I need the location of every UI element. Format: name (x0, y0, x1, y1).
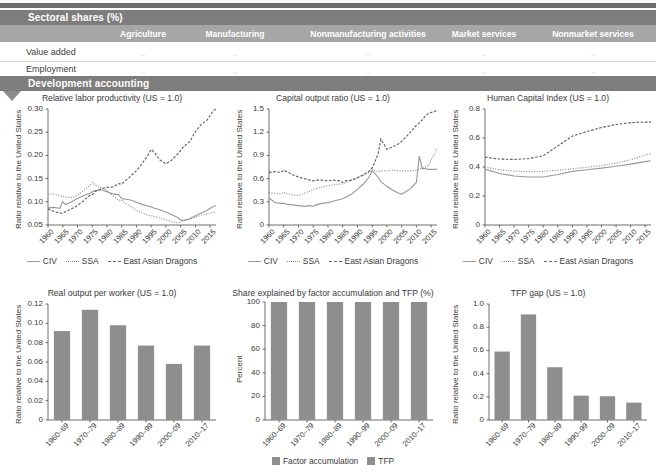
legend-item: TFP (367, 456, 394, 466)
bar (138, 346, 154, 420)
development-accounting-band: Development accounting (0, 76, 656, 91)
chart-plot-area (441, 93, 655, 273)
series-east-asian-dragons (485, 122, 651, 159)
chart-plot-area (441, 288, 655, 474)
series-ssa (48, 182, 216, 222)
legend-item: CIV (463, 256, 493, 266)
chart-plot-area (4, 288, 220, 474)
bar (82, 310, 98, 420)
cell-employment-market-services: .. (424, 66, 544, 75)
chart-share-factor-accumulation-tfp: Share explained by factor accumulation a… (225, 288, 441, 474)
bar (547, 367, 562, 420)
row-label-employment: Employment (26, 64, 76, 74)
cell-value-added-market-services: .. (424, 49, 544, 58)
legend-item: SSA (287, 256, 320, 266)
legend-item: East Asian Dragons (329, 256, 419, 266)
legend-label: SSA (82, 256, 99, 266)
legend-swatch-ssa-icon (502, 261, 515, 262)
bar (521, 314, 536, 420)
legend-swatch-ssa-icon (287, 261, 300, 262)
chart-tfp-gap: TFP gap (US = 1.0)Ratio relative to the … (441, 288, 655, 474)
bar (383, 302, 399, 420)
bar (299, 302, 315, 420)
legend-item: CIV (27, 256, 57, 266)
bar (574, 396, 589, 420)
series-civ (48, 190, 216, 221)
chart-plot-area (225, 93, 441, 273)
bar (327, 302, 343, 420)
chart-human-capital-index: Human Capital Index (US = 1.0)Ratio rela… (441, 93, 655, 273)
chart-plot-area (225, 288, 441, 474)
legend-label: SSA (518, 256, 535, 266)
legend-label: SSA (303, 256, 320, 266)
legend-label: East Asian Dragons (560, 256, 634, 266)
legend-item: SSA (66, 256, 99, 266)
sectoral-shares-band: Sectoral shares (%) (0, 10, 656, 25)
legend-label: East Asian Dragons (124, 256, 198, 266)
series-east-asian-dragons (269, 111, 437, 183)
chart-real-output-per-worker: Real output per worker (US = 1.0)Ratio r… (4, 288, 220, 474)
bar (600, 396, 615, 420)
development-accounting-title: Development accounting (0, 78, 149, 89)
bar (355, 302, 371, 420)
legend-label: CIV (264, 256, 278, 266)
cell-employment-nonmarket-services: .. (530, 66, 656, 75)
legend-swatch-east-asian-dragons-icon (329, 261, 342, 262)
legend-swatch-civ-icon (27, 261, 40, 262)
chart-legend: CIVSSAEast Asian Dragons (4, 256, 220, 266)
legend-item: East Asian Dragons (544, 256, 634, 266)
series-ssa (269, 148, 437, 196)
series-civ (269, 156, 437, 206)
table-row: Value added .. .. .. .. .. (0, 44, 656, 61)
legend-swatch-tfp-icon (367, 457, 375, 465)
bar (271, 302, 287, 420)
chart-plot-area (4, 93, 220, 273)
bar (411, 302, 427, 420)
column-header-market-services: Market services (424, 29, 544, 39)
legend-label: Factor accumulation (283, 456, 358, 466)
legend-item: East Asian Dragons (108, 256, 198, 266)
figure-page: Sectoral shares (%) Agriculture Manufact… (0, 0, 656, 474)
legend-swatch-east-asian-dragons-icon (108, 261, 121, 262)
legend-item: SSA (502, 256, 535, 266)
bar (626, 403, 641, 420)
legend-label: CIV (479, 256, 493, 266)
legend-swatch-factor-accumulation-icon (272, 457, 280, 465)
sectoral-shares-title: Sectoral shares (%) (0, 12, 123, 23)
bar (54, 331, 70, 420)
column-header-nonmarket-services: Nonmarket services (530, 29, 656, 39)
legend-label: CIV (43, 256, 57, 266)
row-label-value-added: Value added (26, 47, 76, 57)
bar (110, 325, 126, 420)
legend-label: TFP (378, 456, 394, 466)
chart-legend: CIVSSAEast Asian Dragons (225, 256, 441, 266)
bar (166, 364, 182, 420)
bar (495, 352, 510, 420)
legend-swatch-ssa-icon (66, 261, 79, 262)
legend-item: Factor accumulation (272, 456, 358, 466)
series-ssa (485, 154, 651, 172)
sectoral-column-headers: Agriculture Manufacturing Nonmanufacturi… (0, 25, 656, 42)
chart-relative-labor-productivity: Relative labor productivity (US = 1.0)Ra… (4, 93, 220, 273)
legend-swatch-civ-icon (463, 261, 476, 262)
chart-legend: Factor accumulationTFP (225, 456, 441, 466)
bar (194, 346, 210, 420)
series-east-asian-dragons (48, 109, 216, 213)
legend-swatch-civ-icon (248, 261, 261, 262)
legend-item: CIV (248, 256, 278, 266)
legend-swatch-east-asian-dragons-icon (544, 261, 557, 262)
top-rule (0, 3, 656, 8)
legend-label: East Asian Dragons (345, 256, 419, 266)
chart-capital-output-ratio: Capital output ratio (US = 1.0)Ratio rel… (225, 93, 441, 273)
chart-legend: CIVSSAEast Asian Dragons (441, 256, 655, 266)
cell-value-added-nonmarket-services: .. (530, 49, 656, 58)
